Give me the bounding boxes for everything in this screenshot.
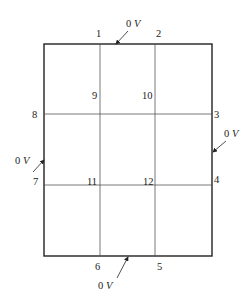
voltage-label: 0 V [126, 18, 142, 29]
boundary-voltages: 0 V0 V0 V0 V [15, 18, 240, 291]
node-label-3: 3 [214, 109, 219, 120]
voltage-bottom: 0 V [98, 257, 128, 291]
arrow-icon [116, 31, 128, 44]
outer-boundary [44, 44, 212, 256]
arrow-icon [117, 257, 128, 278]
voltage-top: 0 V [116, 18, 142, 44]
node-label-12: 12 [143, 176, 154, 187]
node-label-5: 5 [157, 261, 162, 272]
node-labels: 123456789101112 [32, 28, 220, 272]
grid-lines [44, 44, 212, 256]
voltage-label: 0 V [15, 155, 31, 166]
node-label-11: 11 [87, 176, 97, 187]
grid-diagram: 123456789101112 0 V0 V0 V0 V [0, 0, 252, 304]
voltage-label: 0 V [224, 128, 240, 139]
node-label-4: 4 [214, 174, 220, 185]
node-label-7: 7 [33, 176, 38, 187]
node-label-6: 6 [95, 261, 100, 272]
node-label-2: 2 [156, 28, 161, 39]
node-label-10: 10 [142, 90, 153, 101]
arrow-icon [213, 141, 226, 152]
arrow-icon [33, 160, 44, 172]
node-label-9: 9 [92, 90, 97, 101]
node-label-1: 1 [96, 28, 101, 39]
voltage-left: 0 V [15, 155, 44, 172]
voltage-right: 0 V [213, 128, 240, 152]
voltage-label: 0 V [98, 280, 114, 291]
node-label-8: 8 [32, 109, 37, 120]
